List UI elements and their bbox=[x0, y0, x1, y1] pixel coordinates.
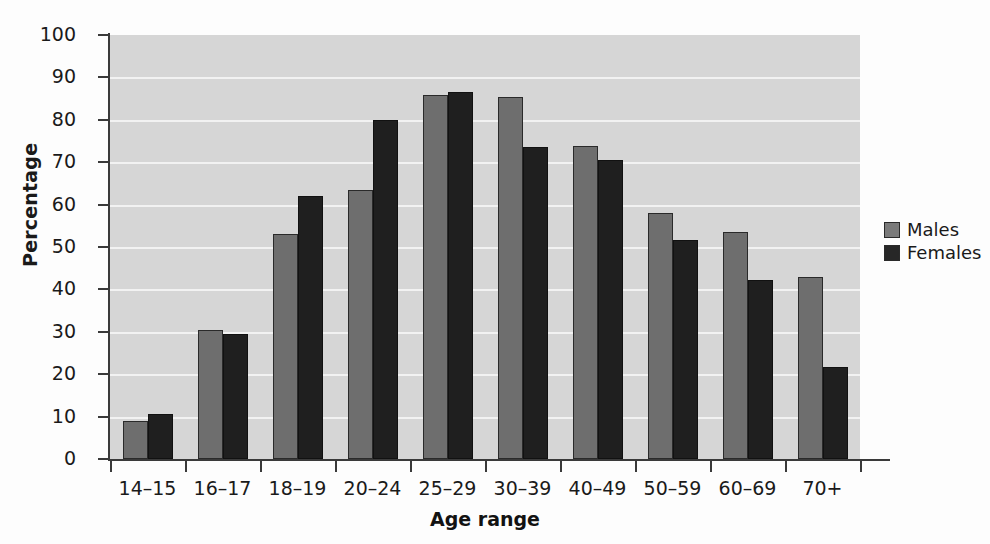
bar-males-7 bbox=[648, 213, 673, 459]
bar-females-7 bbox=[673, 240, 698, 459]
bar-females-1 bbox=[223, 334, 248, 459]
bar-males-1 bbox=[198, 330, 223, 459]
bar-females-5 bbox=[523, 147, 548, 459]
bar-females-4 bbox=[448, 92, 473, 459]
gridline bbox=[110, 247, 860, 249]
legend-swatch-females bbox=[884, 245, 900, 261]
bar-females-9 bbox=[823, 367, 848, 459]
bar-chart-figure: Percentage 0102030405060708090100 14–151… bbox=[0, 0, 990, 544]
x-tick-mark bbox=[260, 461, 262, 472]
bar-females-2 bbox=[298, 196, 323, 459]
x-tick-mark bbox=[860, 461, 862, 472]
y-tick-mark bbox=[98, 458, 109, 460]
bar-females-8 bbox=[748, 280, 773, 459]
legend-item-females: Females bbox=[884, 241, 981, 264]
legend-label: Males bbox=[907, 221, 959, 239]
bar-females-6 bbox=[598, 160, 623, 459]
y-tick-label: 0 bbox=[6, 449, 76, 468]
x-tick-mark bbox=[710, 461, 712, 472]
y-tick-mark bbox=[98, 331, 109, 333]
x-tick-mark bbox=[560, 461, 562, 472]
y-tick-label: 20 bbox=[6, 364, 76, 383]
x-tick-mark bbox=[410, 461, 412, 472]
bar-males-2 bbox=[273, 234, 298, 459]
bar-males-3 bbox=[348, 190, 373, 459]
y-tick-mark bbox=[98, 373, 109, 375]
x-tick-mark bbox=[785, 461, 787, 472]
bar-males-5 bbox=[498, 97, 523, 459]
y-tick-label: 80 bbox=[6, 110, 76, 129]
y-tick-label: 100 bbox=[6, 25, 76, 44]
y-tick-mark bbox=[98, 246, 109, 248]
x-axis-label: Age range bbox=[110, 508, 860, 530]
y-tick-mark bbox=[98, 34, 109, 36]
bar-males-4 bbox=[423, 95, 448, 459]
legend: MalesFemales bbox=[884, 218, 981, 264]
y-tick-mark bbox=[98, 204, 109, 206]
legend-swatch-males bbox=[884, 222, 900, 238]
bar-males-6 bbox=[573, 146, 598, 459]
bar-females-0 bbox=[148, 414, 173, 459]
gridline bbox=[110, 205, 860, 207]
legend-item-males: Males bbox=[884, 218, 981, 241]
y-tick-label: 30 bbox=[6, 322, 76, 341]
y-tick-label: 40 bbox=[6, 279, 76, 298]
bar-males-9 bbox=[798, 277, 823, 459]
legend-label: Females bbox=[907, 244, 981, 262]
bar-males-8 bbox=[723, 232, 748, 459]
y-tick-mark bbox=[98, 161, 109, 163]
y-tick-mark bbox=[98, 288, 109, 290]
y-tick-label: 50 bbox=[6, 237, 76, 256]
x-tick-mark bbox=[635, 461, 637, 472]
x-tick-mark bbox=[110, 461, 112, 472]
gridline bbox=[110, 162, 860, 164]
x-tick-mark bbox=[485, 461, 487, 472]
x-axis-line bbox=[108, 459, 890, 461]
y-tick-mark bbox=[98, 119, 109, 121]
x-tick-mark bbox=[335, 461, 337, 472]
y-tick-label: 90 bbox=[6, 67, 76, 86]
x-tick-label: 70+ bbox=[778, 477, 868, 499]
y-tick-mark bbox=[98, 76, 109, 78]
x-tick-mark bbox=[185, 461, 187, 472]
y-tick-label: 10 bbox=[6, 407, 76, 426]
y-tick-label: 70 bbox=[6, 152, 76, 171]
bar-males-0 bbox=[123, 421, 148, 459]
gridline bbox=[110, 77, 860, 79]
y-tick-mark bbox=[98, 416, 109, 418]
gridline bbox=[110, 120, 860, 122]
bar-females-3 bbox=[373, 120, 398, 459]
y-tick-label: 60 bbox=[6, 195, 76, 214]
